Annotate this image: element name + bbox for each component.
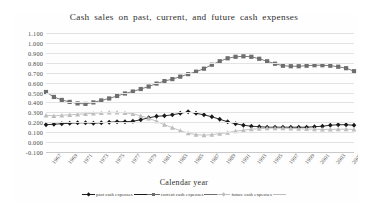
data-point	[241, 123, 246, 128]
legend-swatch-trailing	[134, 194, 147, 195]
data-point	[202, 67, 206, 71]
y-axis-tick-label: 0.700	[28, 69, 43, 76]
data-point	[336, 65, 340, 69]
data-point	[154, 114, 159, 119]
y-axis-tick-label: -0.100	[26, 149, 43, 156]
data-point	[226, 56, 230, 60]
gridline	[46, 122, 354, 123]
data-point	[178, 75, 182, 79]
gridline	[46, 112, 354, 113]
gridline	[46, 73, 354, 74]
gridline	[46, 102, 354, 103]
gridline	[46, 43, 354, 44]
data-point	[147, 84, 151, 88]
scan-margin-bottom	[0, 203, 368, 207]
data-point	[233, 55, 237, 59]
legend-marker-icon	[152, 193, 155, 196]
y-axis-tick-label: 1.000	[28, 39, 43, 46]
data-point	[210, 114, 215, 119]
legend-swatch-diamond-icon	[82, 194, 95, 195]
y-axis-tick-label: 1.100	[28, 30, 43, 37]
legend-item[interactable]: current cash expenses	[147, 192, 218, 197]
data-point	[162, 113, 167, 118]
y-axis-tick-label: 0.100	[28, 129, 43, 136]
data-point	[281, 64, 285, 68]
legend-item[interactable]: future cash expenses	[217, 192, 285, 197]
legend-label: future cash expenses	[231, 192, 271, 197]
data-point	[107, 96, 111, 100]
x-axis-label: Calendar year	[0, 178, 368, 187]
data-point	[305, 64, 309, 68]
data-point	[115, 94, 119, 98]
gridline	[46, 63, 354, 64]
gridline	[46, 142, 354, 143]
data-point	[320, 63, 324, 67]
data-point	[312, 63, 316, 67]
data-point	[328, 123, 333, 128]
chart-legend: past cash expensescurrent cash expensesf…	[0, 192, 368, 197]
gridline	[46, 33, 354, 34]
data-point	[52, 95, 56, 99]
data-point	[289, 64, 293, 68]
y-axis-tick-label: 0.000	[28, 139, 43, 146]
data-point	[60, 98, 64, 102]
y-axis-tick-label: 0.400	[28, 99, 43, 106]
data-point	[241, 54, 245, 58]
legend-label: current cash expenses	[161, 192, 204, 197]
legend-marker-icon	[222, 192, 227, 197]
gridline	[46, 93, 354, 94]
scan-margin-top	[0, 0, 368, 14]
y-axis-tick-label: 0.500	[28, 89, 43, 96]
data-point	[139, 87, 143, 91]
legend-swatch-trailing	[204, 194, 217, 195]
data-point	[257, 57, 261, 61]
figure-canvas: Cash sales on past, current, and future …	[0, 0, 368, 207]
data-point	[328, 64, 332, 68]
y-axis-tick-label: 0.800	[28, 59, 43, 66]
plot-area: 1.1001.0000.9000.8000.7000.6000.5000.400…	[46, 33, 354, 152]
gridline	[46, 132, 354, 133]
y-axis-tick-label: 0.900	[28, 49, 43, 56]
data-point	[217, 117, 222, 122]
data-point	[344, 66, 348, 70]
scan-margin-right	[358, 0, 368, 207]
scan-margin-left	[0, 0, 14, 207]
data-point	[170, 77, 174, 81]
legend-label: past cash expenses	[96, 192, 133, 197]
data-point	[170, 125, 175, 130]
data-point	[249, 55, 253, 59]
legend-item[interactable]: past cash expenses	[82, 192, 147, 197]
legend-marker-icon	[86, 192, 91, 197]
data-point	[297, 64, 301, 68]
legend-swatch-trailing	[273, 194, 286, 195]
gridline	[46, 83, 354, 84]
y-axis-tick-label: 0.600	[28, 79, 43, 86]
y-axis-tick-label: 0.300	[28, 109, 43, 116]
legend-swatch-triangle-icon	[217, 194, 230, 195]
gridline	[46, 53, 354, 54]
y-axis-tick-label: 0.200	[28, 119, 43, 126]
legend-swatch-square-icon	[147, 194, 160, 195]
